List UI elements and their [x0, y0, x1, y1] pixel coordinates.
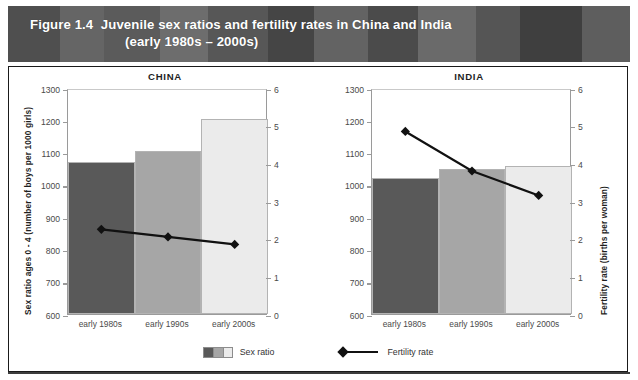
tick-mark	[570, 240, 575, 241]
legend-marker-fertility-rate	[336, 347, 380, 358]
tick-label: 900	[350, 215, 364, 224]
category-label: early 2000s	[200, 319, 267, 329]
tick-label: 5	[274, 123, 279, 132]
tick-mark	[266, 90, 271, 91]
tick-mark	[266, 127, 271, 128]
diamond-marker-icon	[467, 166, 476, 175]
tick-label: 6	[578, 86, 583, 95]
tick-label: 600	[350, 312, 364, 321]
figure-number: Figure 1.4	[30, 17, 93, 32]
tick-label: 1000	[345, 182, 364, 191]
diamond-marker-icon	[163, 232, 172, 241]
tick-mark	[367, 186, 372, 187]
plot-frame: Sex ratio ages 0 - 4 (number of boys per…	[8, 66, 628, 372]
legend-item-sex-ratio: Sex ratio	[203, 347, 275, 358]
tick-label: 700	[46, 279, 60, 288]
tick-label: 800	[350, 247, 364, 256]
tick-mark	[63, 154, 68, 155]
tick-label: 1100	[346, 150, 364, 159]
tick-mark	[63, 316, 68, 317]
plot-area-india: 60070080090010001100120013000123456	[371, 89, 571, 315]
category-label: early 1980s	[67, 319, 134, 329]
tick-mark	[570, 90, 575, 91]
panel-china: CHINA 6007008009001000110012001300012345…	[15, 67, 315, 337]
panel-title-china: CHINA	[15, 71, 315, 82]
legend-swatch	[203, 347, 213, 358]
legend-label-fertility-rate: Fertility rate	[387, 347, 433, 357]
tick-label: 5	[578, 123, 583, 132]
tick-label: 1000	[41, 182, 60, 191]
tick-mark	[367, 122, 372, 123]
tick-mark	[266, 165, 271, 166]
diamond-marker-icon	[534, 191, 543, 200]
tick-label: 4	[578, 161, 583, 170]
tick-mark	[570, 316, 575, 317]
bottom-rule	[8, 372, 630, 374]
fertility-line-india	[372, 90, 572, 316]
category-labels-india: early 1980searly 1990searly 2000s	[371, 319, 571, 333]
diamond-marker-icon	[230, 240, 239, 249]
tick-mark	[367, 283, 372, 284]
tick-mark	[266, 240, 271, 241]
legend-swatch	[223, 347, 233, 358]
category-label: early 2000s	[504, 319, 571, 329]
legend-item-fertility-rate: Fertility rate	[336, 347, 433, 358]
tick-mark	[367, 90, 372, 91]
tick-label: 1200	[345, 118, 364, 127]
tick-mark	[63, 283, 68, 284]
panel-title-india: INDIA	[319, 71, 619, 82]
figure-container: Figure 1.4 Juvenile sex ratios and ferti…	[0, 0, 638, 380]
tick-label: 3	[274, 199, 279, 208]
figure-title-line1: Juvenile sex ratios and fertility rates …	[101, 17, 452, 32]
line-path	[405, 131, 538, 195]
tick-mark	[367, 316, 372, 317]
tick-label: 1300	[41, 86, 60, 95]
tick-mark	[63, 186, 68, 187]
tick-label: 2	[274, 236, 279, 245]
tick-mark	[63, 122, 68, 123]
tick-label: 3	[578, 199, 583, 208]
category-label: early 1990s	[134, 319, 201, 329]
tick-mark	[266, 316, 271, 317]
plot-area-china: 60070080090010001100120013000123456	[67, 89, 267, 315]
tick-label: 6	[274, 86, 279, 95]
tick-mark	[63, 90, 68, 91]
tick-mark	[570, 203, 575, 204]
tick-mark	[570, 127, 575, 128]
tick-label: 0	[274, 312, 279, 321]
diamond-marker-icon	[401, 127, 410, 136]
legend-label-sex-ratio: Sex ratio	[240, 347, 275, 357]
figure-header-banner: Figure 1.4 Juvenile sex ratios and ferti…	[8, 6, 630, 62]
tick-mark	[367, 251, 372, 252]
tick-mark	[570, 165, 575, 166]
tick-label: 900	[46, 215, 60, 224]
fertility-line-china	[68, 90, 268, 316]
tick-mark	[266, 278, 271, 279]
tick-mark	[63, 219, 68, 220]
tick-label: 600	[46, 312, 60, 321]
tick-mark	[570, 278, 575, 279]
figure-title: Figure 1.4 Juvenile sex ratios and ferti…	[8, 6, 630, 50]
tick-label: 1300	[345, 86, 364, 95]
tick-label: 800	[46, 247, 60, 256]
legend-swatches-sex-ratio	[203, 347, 233, 358]
tick-label: 700	[350, 279, 364, 288]
tick-mark	[367, 154, 372, 155]
tick-label: 1	[274, 274, 279, 283]
legend-line-segment	[344, 351, 378, 353]
chart-legend: Sex ratio Fertility rate	[8, 340, 628, 364]
tick-label: 0	[578, 312, 583, 321]
tick-mark	[266, 203, 271, 204]
tick-label: 1200	[41, 118, 60, 127]
figure-title-line2: (early 1980s – 2000s)	[125, 34, 258, 49]
tick-label: 1100	[42, 150, 60, 159]
tick-label: 2	[578, 236, 583, 245]
tick-mark	[63, 251, 68, 252]
tick-label: 1	[578, 274, 583, 283]
category-label: early 1980s	[371, 319, 438, 329]
tick-label: 4	[274, 161, 279, 170]
category-label: early 1990s	[438, 319, 505, 329]
legend-swatch	[213, 347, 223, 358]
diamond-marker-icon	[97, 225, 106, 234]
category-labels-china: early 1980searly 1990searly 2000s	[67, 319, 267, 333]
